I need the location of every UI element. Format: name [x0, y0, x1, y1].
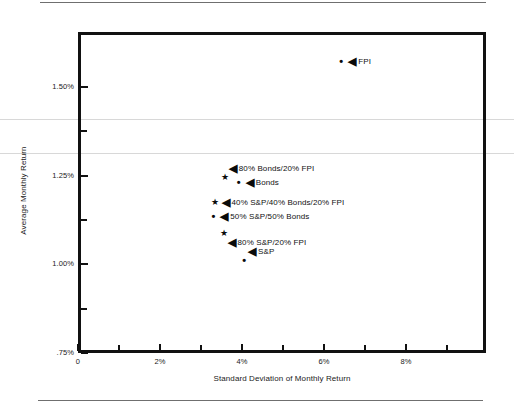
data-point-label: S&P	[258, 247, 274, 256]
callout-arrow-icon: ◀	[222, 196, 230, 207]
data-point-label: 40% S&P/40% Bonds/20% FPI	[232, 197, 345, 206]
x-axis-tick-major	[159, 344, 161, 351]
data-point-label: FPI	[358, 57, 371, 66]
y-axis-tick-minor	[81, 219, 87, 221]
y-axis-tick-major	[81, 86, 88, 88]
data-point-marker[interactable]: ★	[211, 197, 219, 206]
callout-arrow-icon: ◀	[220, 210, 228, 221]
x-axis-title: Standard Deviation of Monthly Return	[78, 374, 486, 383]
data-point-callout: ◀Bonds	[246, 177, 279, 188]
callout-arrow-icon: ◀	[246, 177, 254, 188]
x-axis-tick-minor	[282, 345, 284, 351]
x-axis-tick-minor	[446, 345, 448, 351]
y-axis-tick-minor	[81, 130, 87, 132]
data-point-label: 50% S&P/50% Bonds	[230, 211, 309, 220]
y-axis-tick-major	[81, 352, 88, 354]
x-axis-tick-label: 6%	[304, 357, 344, 366]
x-axis-tick-major	[77, 344, 79, 351]
data-point-marker[interactable]: •	[211, 210, 215, 221]
x-axis-tick-label: 0	[58, 357, 98, 366]
callout-arrow-icon: ◀	[248, 246, 256, 257]
data-point-marker[interactable]: ★	[221, 173, 229, 182]
data-point-callout: ◀FPI	[348, 56, 371, 67]
page-rule-bottom	[38, 400, 483, 401]
figure-page: .75%1.00%1.25%1.50%02%4%6%8% •◀FPI★◀80% …	[0, 0, 514, 413]
data-point-callout: ◀80% Bonds/20% FPI	[229, 163, 315, 174]
x-axis-tick-major	[241, 344, 243, 351]
y-axis-tick-label: .75%	[34, 348, 74, 357]
x-axis-tick-minor	[118, 345, 120, 351]
data-point-label: Bonds	[256, 178, 279, 187]
data-point-marker[interactable]: •	[339, 56, 343, 67]
data-point-callout: ◀40% S&P/40% Bonds/20% FPI	[222, 196, 345, 207]
x-axis-tick-major	[405, 344, 407, 351]
x-axis-tick-major	[323, 344, 325, 351]
x-axis-tick-label: 4%	[222, 357, 262, 366]
x-axis-tick-minor	[200, 345, 202, 351]
data-point-marker[interactable]: •	[242, 255, 246, 266]
x-axis-tick-minor	[364, 345, 366, 351]
y-axis-tick-minor	[81, 308, 87, 310]
callout-arrow-icon: ◀	[348, 56, 356, 67]
y-axis-tick-label: 1.00%	[34, 259, 74, 268]
x-axis-tick-label: 8%	[386, 357, 426, 366]
data-point-label: 80% Bonds/20% FPI	[239, 164, 315, 173]
data-point-marker[interactable]: ★	[220, 228, 228, 237]
data-point-callout: ◀S&P	[248, 246, 274, 257]
y-axis-tick-label: 1.50%	[34, 82, 74, 91]
data-point-marker[interactable]: •	[237, 177, 241, 188]
callout-arrow-icon: ◀	[228, 236, 236, 247]
page-rule-top	[40, 2, 486, 3]
y-axis-tick-major	[81, 263, 88, 265]
x-axis-tick-label: 2%	[140, 357, 180, 366]
callout-arrow-icon: ◀	[229, 163, 237, 174]
plot-frame	[78, 32, 486, 353]
data-point-callout: ◀50% S&P/50% Bonds	[220, 210, 309, 221]
y-axis-tick-major	[81, 175, 88, 177]
y-axis-tick-label: 1.25%	[34, 171, 74, 180]
y-axis-title: Average Monthly Return	[19, 131, 28, 251]
